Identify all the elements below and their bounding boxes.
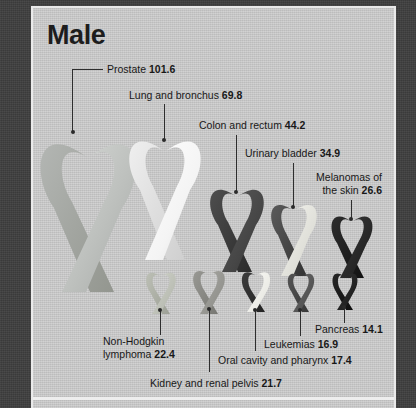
leader-dot-oralcavity <box>253 308 257 312</box>
label-pancreas-value: 14.1 <box>362 323 382 335</box>
label-urinary-value: 34.9 <box>320 147 340 159</box>
leader-oralcavity-vertical <box>255 311 256 351</box>
label-pancreas-text: Pancreas <box>315 323 359 335</box>
leader-prostate-horizontal <box>72 69 103 70</box>
leader-nonhodgkin-vertical <box>160 311 161 335</box>
label-kidney-and-renal-pelvis: Kidney and renal pelvis 21.7 <box>150 377 282 390</box>
label-nonhodgkin-line2: lymphoma <box>103 348 151 360</box>
leader-colon-vertical <box>236 135 237 192</box>
label-lung-text: Lung and bronchus <box>129 89 219 101</box>
ribbon-lung-and-bronchus <box>120 120 210 272</box>
label-urinary-bladder: Urinary bladder 34.9 <box>245 147 340 160</box>
label-colon-value: 44.2 <box>285 119 305 131</box>
leader-leukemias-vertical <box>300 311 301 336</box>
page-title: Male <box>47 22 105 49</box>
label-leukemias: Leukemias 16.9 <box>264 338 338 351</box>
label-colon-text: Colon and rectum <box>199 119 282 131</box>
leader-dot-lung <box>162 138 166 142</box>
chart-panel: Male <box>31 6 396 408</box>
label-prostate-text: Prostate <box>107 63 146 75</box>
leader-lung-vertical <box>164 104 165 140</box>
leader-dot-nonhodgkin <box>158 308 162 312</box>
label-lung-value: 69.8 <box>222 89 242 101</box>
leader-dot-colon <box>234 190 238 194</box>
panel-divider <box>33 397 394 400</box>
label-melanomas-of-the-skin: Melanomas of the skin 26.6 <box>278 171 382 197</box>
label-non-hodgkin-lymphoma: Non-Hodgkin lymphoma 22.4 <box>103 335 175 361</box>
leader-dot-kidney <box>207 307 211 311</box>
label-melanoma-value: 26.6 <box>362 184 382 196</box>
leader-pancreas-vertical <box>344 308 345 323</box>
label-lung-and-bronchus: Lung and bronchus 69.8 <box>129 89 242 102</box>
leader-dot-melanoma <box>349 217 353 221</box>
label-prostate-value: 101.6 <box>149 63 175 75</box>
label-oralcavity-value: 17.4 <box>331 354 351 366</box>
label-melanoma-line1: Melanomas of <box>278 171 382 184</box>
leader-kidney-vertical <box>209 310 210 372</box>
label-nonhodgkin-value: 22.4 <box>154 348 174 360</box>
leader-dot-leukemias <box>298 308 302 312</box>
label-oralcavity-text: Oral cavity and pharynx <box>218 354 328 366</box>
label-leukemias-text: Leukemias <box>264 338 315 350</box>
label-prostate: Prostate 101.6 <box>107 63 175 76</box>
label-colon-and-rectum: Colon and rectum 44.2 <box>199 119 305 132</box>
label-kidney-text: Kidney and renal pelvis <box>150 377 259 389</box>
label-leukemias-value: 16.9 <box>318 338 338 350</box>
leader-dot-pancreas <box>342 305 346 309</box>
label-urinary-text: Urinary bladder <box>245 147 317 159</box>
leader-dot-prostate <box>71 130 75 134</box>
label-oral-cavity-and-pharynx: Oral cavity and pharynx 17.4 <box>218 354 352 367</box>
label-pancreas: Pancreas 14.1 <box>315 323 383 336</box>
leader-dot-urinary <box>291 205 295 209</box>
label-nonhodgkin-line1: Non-Hodgkin <box>103 335 175 348</box>
label-melanoma-line2: the skin <box>322 184 358 196</box>
label-kidney-value: 21.7 <box>262 377 282 389</box>
leader-prostate-vertical <box>72 69 73 132</box>
